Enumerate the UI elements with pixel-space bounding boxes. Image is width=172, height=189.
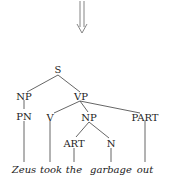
- node-np-subject: NP: [16, 91, 32, 102]
- node-s: S: [55, 64, 62, 75]
- node-np-object: NP: [81, 112, 97, 123]
- node-v: V: [45, 112, 54, 123]
- node-pn: PN: [16, 111, 32, 122]
- word-zeus: Zeus: [11, 164, 36, 175]
- node-part: PART: [131, 112, 158, 123]
- word-garbage: garbage: [90, 164, 132, 175]
- parse-tree-diagram: S NP VP PN V NP PART ART N Zeus took the…: [0, 0, 172, 189]
- node-n: N: [107, 138, 116, 149]
- word-the: the: [66, 164, 82, 175]
- node-vp: VP: [73, 91, 88, 102]
- word-took: took: [40, 164, 62, 175]
- word-out: out: [137, 164, 154, 175]
- node-art: ART: [62, 138, 85, 149]
- down-arrow-icon: [77, 1, 87, 33]
